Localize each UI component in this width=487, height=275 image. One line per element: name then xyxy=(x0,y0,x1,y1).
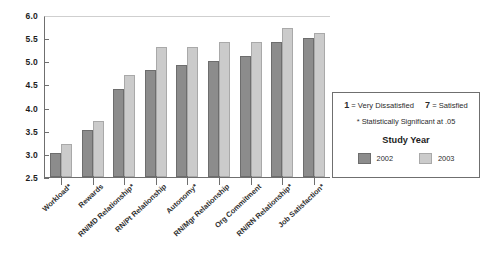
bar-2002 xyxy=(145,70,156,176)
legend-significance-note: * Statistically Significant at .05 xyxy=(333,117,479,126)
bar-2002 xyxy=(240,56,251,176)
bar-2002 xyxy=(303,38,314,177)
bar-2003 xyxy=(124,75,135,177)
bar-2003 xyxy=(219,42,230,176)
legend-swatch xyxy=(419,153,432,164)
y-axis: 6.05.55.04.54.03.53.02.5 xyxy=(0,16,44,178)
bar-2002 xyxy=(82,130,93,176)
y-axis-tick-label: 3.0 xyxy=(26,150,38,160)
scale-low-text: = Very Dissatisfied xyxy=(349,101,414,110)
x-axis-label: RN/MD Relationship* xyxy=(77,182,137,239)
x-axis-label: Rewards xyxy=(76,182,105,210)
legend-key-label: 2002 xyxy=(377,154,393,163)
bar-group xyxy=(271,16,293,177)
bar-group xyxy=(240,16,262,177)
bar-2002 xyxy=(50,153,61,176)
y-axis-tick-label: 5.5 xyxy=(26,34,38,44)
x-axis-labels: Workload*RewardsRN/MD Relationship*RN/Pt… xyxy=(0,182,340,272)
bar-2003 xyxy=(61,144,72,176)
legend-key-label: 2003 xyxy=(438,154,454,163)
bar-group xyxy=(50,16,72,177)
bar-group xyxy=(303,16,325,177)
bar-2003 xyxy=(314,33,325,176)
scale-high-text: = Satisfied xyxy=(430,101,468,110)
bar-chart: 6.05.55.04.54.03.53.02.5 Workload*Reward… xyxy=(0,0,487,275)
bar-2002 xyxy=(113,89,124,177)
legend-key: 2003 xyxy=(419,153,454,164)
x-axis-label: Workload* xyxy=(41,182,74,213)
bar-2002 xyxy=(271,42,282,176)
bar-group xyxy=(82,16,104,177)
legend: 1 = Very Dissatisfied7 = Satisfied * Sta… xyxy=(332,92,480,178)
bar-group xyxy=(176,16,198,177)
bar-group xyxy=(113,16,135,177)
bar-2003 xyxy=(251,42,262,176)
bar-2003 xyxy=(187,47,198,177)
x-axis-label: RN/Mgr Relationship xyxy=(172,182,231,238)
legend-scale-line: 1 = Very Dissatisfied7 = Satisfied xyxy=(333,100,479,110)
bar-groups xyxy=(46,16,330,177)
bar-2003 xyxy=(156,47,167,177)
y-axis-tick-label: 4.0 xyxy=(26,104,38,114)
x-axis-label: RN/RN Relationship* xyxy=(235,182,294,238)
legend-key: 2002 xyxy=(358,153,393,164)
y-axis-tick-label: 6.0 xyxy=(26,11,38,21)
legend-title: Study Year xyxy=(333,135,479,145)
legend-keys: 20022003 xyxy=(333,153,479,164)
bar-group xyxy=(145,16,167,177)
legend-swatch xyxy=(358,153,371,164)
bar-group xyxy=(208,16,230,177)
bar-2002 xyxy=(208,61,219,177)
bar-2003 xyxy=(282,28,293,176)
bar-2002 xyxy=(176,65,187,176)
bar-2003 xyxy=(93,121,104,177)
y-axis-tick-label: 5.0 xyxy=(26,57,38,67)
y-axis-tick-label: 3.5 xyxy=(26,127,38,137)
y-axis-tick-label: 4.5 xyxy=(26,80,38,90)
